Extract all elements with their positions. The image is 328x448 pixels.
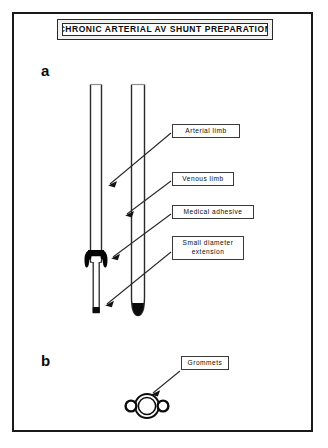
- callout-small-diameter-extension: Small diameter extension: [172, 236, 244, 260]
- callout-grommets: Grommets: [181, 356, 229, 370]
- title-banner: CHRONIC ARTERIAL AV SHUNT PREPARATION: [62, 23, 268, 36]
- figure-root: CHRONIC ARTERIAL AV SHUNT PREPARATION a …: [0, 0, 328, 448]
- figure-outer-border: [12, 12, 313, 432]
- callout-arterial-limb: Arterial limb: [172, 124, 240, 138]
- callout-venous-limb: Venous limb: [172, 172, 234, 186]
- callout-medical-adhesive: Medical adhesive: [172, 205, 254, 219]
- figure-title: CHRONIC ARTERIAL AV SHUNT PREPARATION: [62, 25, 268, 34]
- panel-label-a: a: [41, 63, 49, 78]
- panel-label-b: b: [41, 353, 50, 368]
